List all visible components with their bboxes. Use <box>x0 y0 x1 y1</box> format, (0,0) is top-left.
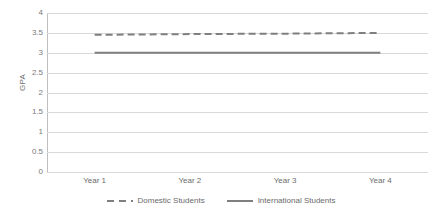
gpa-line-chart: GPA 43.532.521.510.50 Year 1Year 2Year 3… <box>0 0 442 217</box>
dashed-line-icon <box>107 197 133 205</box>
series-line <box>95 33 381 35</box>
legend-item[interactable]: International Students <box>227 196 336 205</box>
x-axis-tick-labels: Year 1Year 2Year 3Year 4 <box>47 176 428 190</box>
x-axis-tick-label: Year 3 <box>274 176 297 185</box>
y-axis-tick-label: 1.5 <box>3 108 43 116</box>
y-axis-tick-label: 0 <box>3 168 43 176</box>
y-axis-tick-label: 3.5 <box>3 29 43 37</box>
y-axis-tick-label: 1 <box>3 128 43 136</box>
y-axis-tick-label: 3 <box>3 49 43 57</box>
y-axis-tick-label: 4 <box>3 9 43 17</box>
x-axis-tick-label: Year 1 <box>83 176 106 185</box>
legend-label: Domestic Students <box>138 196 205 205</box>
legend-item[interactable]: Domestic Students <box>107 196 205 205</box>
y-axis-tick-label: 2 <box>3 89 43 97</box>
x-axis-tick-label: Year 4 <box>369 176 392 185</box>
y-axis-tick-label: 0.5 <box>3 148 43 156</box>
solid-line-icon <box>227 197 253 205</box>
chart-legend: Domestic StudentsInternational Students <box>0 196 442 205</box>
gridline <box>47 172 428 173</box>
y-axis-tick-label: 2.5 <box>3 69 43 77</box>
x-axis-tick-label: Year 2 <box>178 176 201 185</box>
y-axis-tick-labels: 43.532.521.510.50 <box>0 13 43 172</box>
legend-label: International Students <box>258 196 336 205</box>
series-lines <box>47 13 428 172</box>
plot-area <box>47 13 428 172</box>
